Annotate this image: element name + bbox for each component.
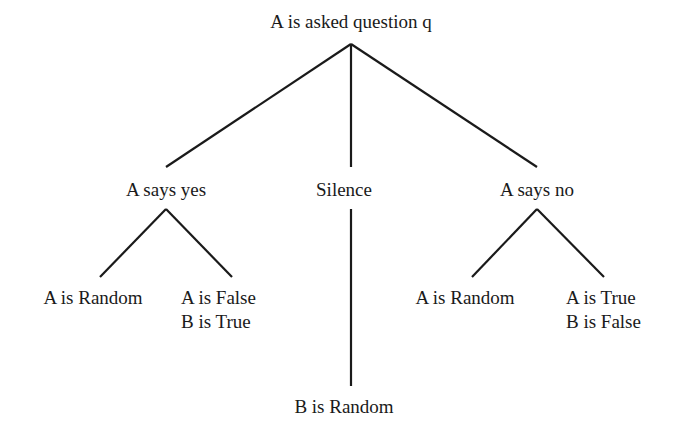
edge-no-random <box>472 209 537 277</box>
leaf-no-a-true: A is True B is False <box>566 286 641 334</box>
tree-edges <box>0 0 681 427</box>
node-a-says-yes: A says yes <box>126 178 206 202</box>
leaf-no-a-random: A is Random <box>415 286 514 310</box>
edge-root-no <box>351 44 537 167</box>
edge-root-yes <box>166 44 351 167</box>
root-node: A is asked question q <box>270 10 432 34</box>
leaf-yes-a-random: A is Random <box>43 286 142 310</box>
leaf-yes-a-false: A is False B is True <box>181 286 256 334</box>
leaf-line: B is True <box>181 310 256 334</box>
edge-no-true <box>537 209 604 277</box>
decision-tree-diagram: A is asked question q A says yes Silence… <box>0 0 681 427</box>
node-a-says-no: A says no <box>500 178 574 202</box>
leaf-line: B is False <box>566 310 641 334</box>
node-silence: Silence <box>316 178 372 202</box>
edge-yes-false <box>166 209 232 277</box>
leaf-silence-b-random: B is Random <box>294 395 393 419</box>
leaf-line: A is False <box>181 286 256 310</box>
edge-yes-random <box>100 209 166 277</box>
leaf-line: A is True <box>566 286 641 310</box>
